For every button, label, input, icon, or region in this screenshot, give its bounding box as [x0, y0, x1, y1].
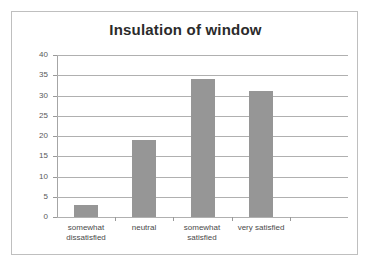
y-axis-label: 20 — [20, 132, 48, 140]
plot-area — [57, 55, 348, 217]
y-axis-tick — [53, 217, 57, 218]
y-axis-label: 25 — [20, 112, 48, 120]
bar — [74, 205, 98, 217]
y-axis-label: 40 — [20, 51, 48, 59]
x-axis-label-line: very satisfied — [232, 223, 290, 233]
x-axis-label: somewhatsatisfied — [173, 223, 231, 243]
x-axis-tick — [290, 217, 291, 221]
x-axis-label-line: satisfied — [173, 233, 231, 243]
x-axis-tick — [232, 217, 233, 221]
x-axis-tick — [173, 217, 174, 221]
bar — [191, 79, 215, 217]
y-axis-label: 5 — [20, 193, 48, 201]
bar — [132, 140, 156, 217]
y-axis-label: 15 — [20, 152, 48, 160]
x-axis-label-line: somewhat — [173, 223, 231, 233]
x-axis-label-line: dissatisfied — [57, 233, 115, 243]
x-axis-label: very satisfied — [232, 223, 290, 233]
x-axis-label-line: neutral — [115, 223, 173, 233]
x-axis-label-line: somewhat — [57, 223, 115, 233]
chart-title: Insulation of window — [12, 21, 359, 38]
y-axis-label: 0 — [20, 213, 48, 221]
bar — [249, 91, 273, 217]
x-axis-label: somewhatdissatisfied — [57, 223, 115, 243]
y-axis-label: 35 — [20, 71, 48, 79]
x-axis-label: neutral — [115, 223, 173, 233]
chart-screenshot: Insulation of window 0510152025303540 so… — [0, 0, 372, 267]
y-axis-label: 10 — [20, 173, 48, 181]
y-axis-label: 30 — [20, 92, 48, 100]
x-axis-tick — [115, 217, 116, 221]
gridline — [57, 217, 348, 218]
chart-frame: Insulation of window 0510152025303540 so… — [11, 11, 358, 255]
